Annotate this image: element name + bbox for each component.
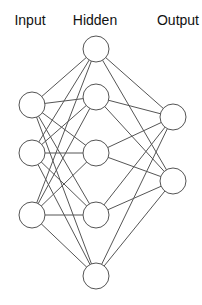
hidden-neuron [83,263,109,289]
output-neuron [160,104,186,130]
input-neuron [19,202,45,228]
connection-line [96,117,173,276]
input-neuron [19,92,45,118]
hidden-neuron [83,140,109,166]
neural-network-diagram [0,0,202,305]
connection-line [96,97,173,181]
hidden-neuron [83,84,109,110]
hidden-neuron [83,202,109,228]
output-neuron [160,168,186,194]
hidden-neuron [83,36,109,62]
connection-line [96,117,173,215]
neurons [19,36,186,289]
connection-line [96,181,173,276]
input-neuron [19,140,45,166]
